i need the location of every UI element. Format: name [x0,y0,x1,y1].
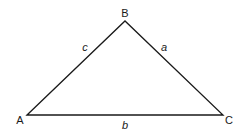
triangle-diagram: B A C c a b [0,0,246,134]
vertex-label-b: B [121,7,128,19]
side-label-c: c [82,41,88,53]
vertex-label-c: C [225,114,233,126]
triangle-abc [27,21,223,115]
side-label-a: a [161,41,167,53]
vertex-label-a: A [16,114,24,126]
side-label-b: b [122,119,128,131]
